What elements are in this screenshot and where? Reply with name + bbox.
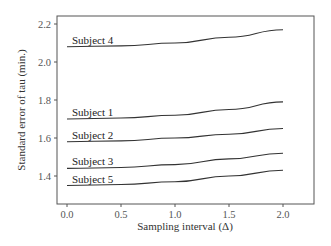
y-tick-label: 2.2 [38, 19, 51, 30]
x-tick-label: 0.0 [60, 209, 73, 220]
series-label: Subject 5 [72, 173, 114, 185]
y-axis: 1.41.61.82.02.2 [38, 19, 57, 182]
series-label: Subject 3 [72, 155, 114, 167]
y-tick-label: 1.6 [38, 133, 51, 144]
x-tick-label: 1.5 [222, 209, 235, 220]
x-axis: 0.00.51.01.52.0 [60, 204, 289, 220]
y-axis-title: Standard error of tau (min.) [15, 49, 28, 171]
series-label: Subject 4 [72, 34, 114, 46]
y-tick-label: 1.4 [38, 171, 52, 182]
line-chart: 0.00.51.01.52.0 1.41.61.82.02.2 Subject … [0, 0, 331, 246]
y-tick-label: 2.0 [38, 57, 51, 68]
x-tick-label: 0.5 [114, 209, 127, 220]
x-axis-title: Sampling interval (Δ) [137, 220, 233, 233]
x-tick-label: 1.0 [168, 209, 181, 220]
y-tick-label: 1.8 [38, 95, 51, 106]
series-lines: Subject 4Subject 1Subject 2Subject 3Subj… [67, 30, 283, 186]
series-label: Subject 1 [72, 106, 113, 118]
x-tick-label: 2.0 [276, 209, 289, 220]
series-label: Subject 2 [72, 129, 113, 141]
